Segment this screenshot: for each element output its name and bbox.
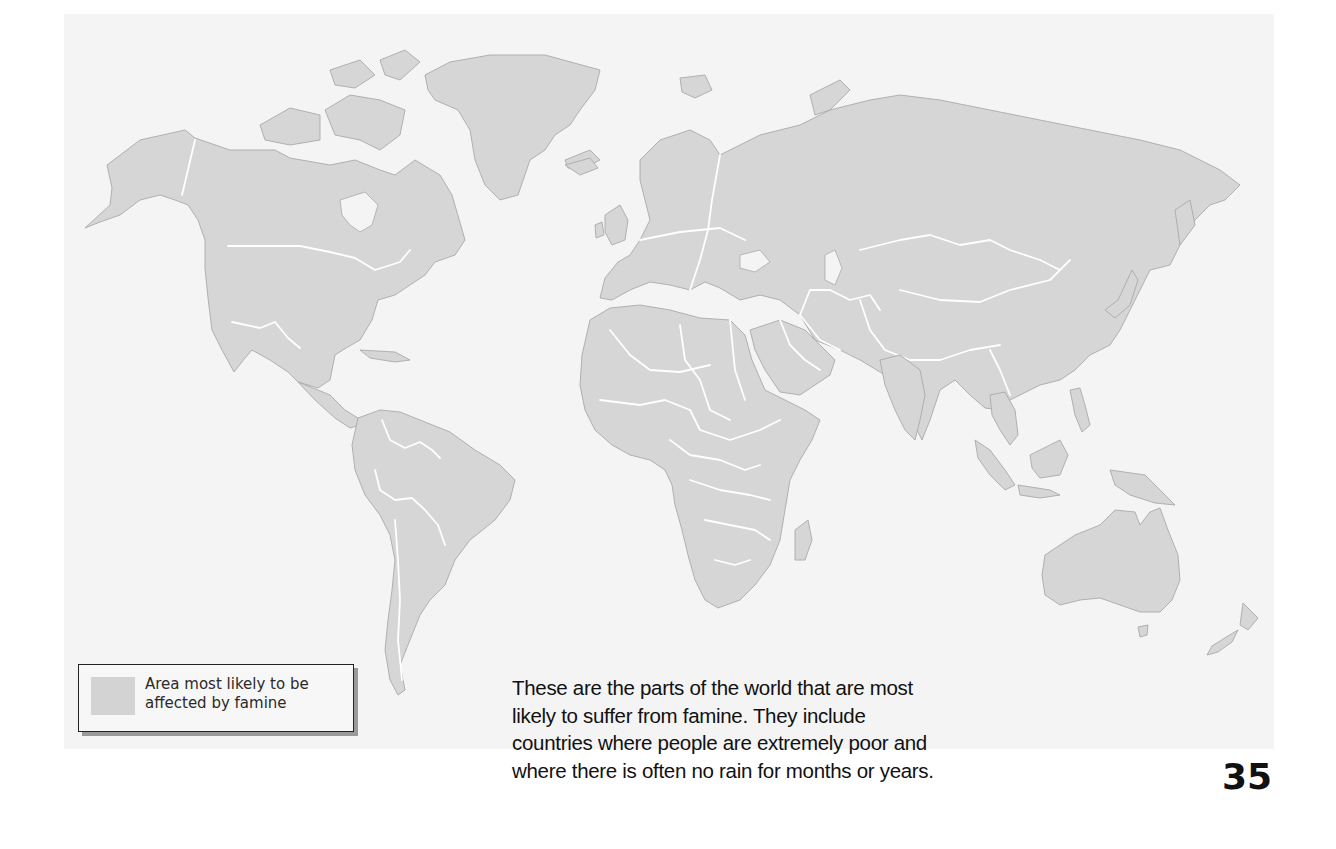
caption-line-1: These are the parts of the world that ar… bbox=[512, 674, 1032, 702]
legend-swatch bbox=[91, 677, 135, 715]
caption-line-3: countries where people are extremely poo… bbox=[512, 729, 1032, 757]
legend-label-line-2: affected by famine bbox=[145, 694, 345, 713]
page-number: 35 bbox=[1222, 756, 1272, 797]
caption-line-4: where there is often no rain for months … bbox=[512, 757, 1032, 785]
south-america bbox=[352, 410, 515, 695]
map-caption: These are the parts of the world that ar… bbox=[512, 674, 1032, 784]
legend-label-line-1: Area most likely to be bbox=[145, 675, 345, 694]
legend-label: Area most likely to be affected by famin… bbox=[145, 675, 345, 713]
caption-line-2: likely to suffer from famine. They inclu… bbox=[512, 702, 1032, 730]
southeast-asia bbox=[975, 388, 1175, 505]
north-america bbox=[85, 50, 465, 428]
australia bbox=[1042, 508, 1180, 637]
map-legend: Area most likely to be affected by famin… bbox=[78, 664, 354, 732]
greenland bbox=[425, 55, 600, 200]
new-zealand bbox=[1207, 603, 1258, 655]
